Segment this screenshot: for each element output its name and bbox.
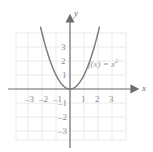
x-tick-label-1: 1 [81,95,86,104]
y-axis-arrowhead [66,15,73,22]
curve-equation-label: f(x) = x2 [88,60,118,69]
x-axis-label: x [142,84,146,93]
y-tick-label-2: 2 [61,57,66,66]
x-tick-label-3: 3 [109,95,114,104]
y-tick-label-neg2: –2 [58,113,67,122]
x-tick-label-2: 2 [95,95,100,104]
y-axis [66,15,73,148]
curve-equation-base: f(x) = x [88,59,115,69]
y-tick-label-1: 1 [62,71,67,80]
y-tick-label-neg3: –3 [58,127,67,136]
y-tick-label-3: 3 [61,43,66,52]
y-axis-label: y [74,9,78,18]
curve-equation-exponent: 2 [115,57,118,64]
y-tick-label-neg1: –1 [58,99,67,108]
x-tick-label-neg3: –3 [25,95,34,104]
grid-lines [16,32,126,140]
coordinate-plane [0,0,153,152]
x-tick-label-neg2: –2 [39,95,48,104]
graph-figure: –3 –2 –1 1 2 3 3 2 1 –1 –2 –3 y x f(x) =… [0,0,153,152]
x-axis-arrowhead [131,85,138,92]
